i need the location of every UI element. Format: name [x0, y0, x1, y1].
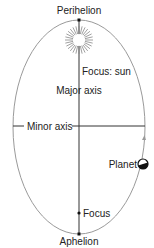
sun-core [73, 34, 85, 46]
sun-ray [65, 37, 73, 39]
sun-ray [85, 41, 93, 43]
aphelion-label: Aphelion [60, 236, 99, 247]
minor-axis-label: Minor axis [27, 121, 73, 132]
sun-ray [65, 41, 73, 43]
sun-ray [85, 37, 93, 39]
sun-ray [76, 26, 78, 34]
focus-marker [77, 211, 80, 214]
perihelion-label: Perihelion [57, 5, 101, 16]
direction-arrow-icon [142, 135, 146, 140]
planet-label: Planet [109, 159, 138, 170]
focus-sun-label: Focus: sun [82, 66, 131, 77]
sun-ray [80, 46, 82, 54]
focus-label: Focus [83, 208, 110, 219]
perihelion-marker [78, 19, 81, 22]
sun-ray [76, 46, 78, 54]
orbit-diagram: Perihelion Focus: sun Major axis Minor a… [0, 0, 154, 248]
sun-ray [80, 26, 82, 34]
sun-icon [65, 26, 93, 54]
planet-icon [138, 159, 148, 169]
major-axis-label: Major axis [56, 85, 102, 96]
